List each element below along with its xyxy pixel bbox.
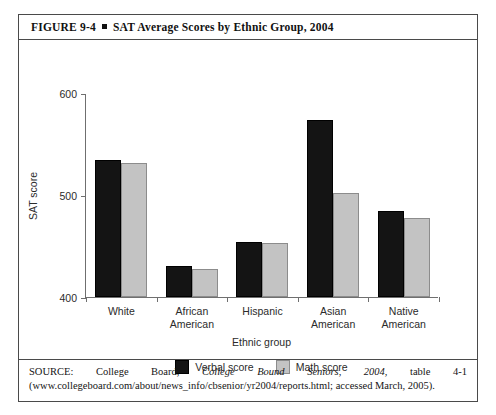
x-axis-tick-mark [157, 297, 158, 302]
square-bullet-icon [102, 24, 107, 29]
x-axis-tick-mark [298, 297, 299, 302]
bar-group [298, 94, 369, 297]
bar [333, 193, 359, 297]
bar [262, 243, 288, 297]
figure-title: SAT Average Scores by Ethnic Group, 2004 [113, 21, 334, 33]
x-axis-tick-mark [368, 297, 369, 302]
bar-group [157, 94, 228, 297]
bar-group [227, 94, 298, 297]
figure-box: FIGURE 9-4 SAT Average Scores by Ethnic … [18, 14, 478, 402]
x-axis-tick-mark [227, 297, 228, 302]
y-axis-tick-label: 600 [31, 88, 86, 100]
bar [95, 160, 121, 297]
source-prefix: SOURCE: College Board, [29, 366, 202, 377]
x-axis-category-label: NativeAmerican [358, 305, 450, 330]
x-axis-label: Ethnic group [85, 336, 438, 348]
figure-header: FIGURE 9-4 SAT Average Scores by Ethnic … [19, 15, 477, 40]
y-axis-tick-label: 500 [31, 190, 86, 202]
figure-number: FIGURE 9-4 [31, 21, 96, 33]
source-italic-title: College Bound Seniors, 2004 [202, 366, 385, 377]
x-axis-label-text: Ethnic group [232, 336, 291, 348]
plot-area: 400500600 WhiteAfricanAmericanHispanicAs… [85, 94, 438, 298]
bar [236, 242, 262, 297]
source-divider [19, 359, 477, 360]
bar-group [368, 94, 439, 297]
chart-region: SAT score 400500600 WhiteAfricanAmerican… [19, 40, 477, 340]
bar [404, 218, 430, 297]
bars-layer [86, 94, 438, 297]
bar [307, 120, 333, 297]
bar [192, 269, 218, 297]
x-axis-tick-mark [86, 297, 87, 302]
bar [166, 266, 192, 297]
y-axis-tick-label: 400 [31, 292, 86, 304]
source-note: SOURCE: College Board, College Bound Sen… [29, 365, 467, 392]
bar-group [86, 94, 157, 297]
bar [121, 163, 147, 297]
x-axis-tick-mark [439, 297, 440, 302]
bar [378, 211, 404, 297]
